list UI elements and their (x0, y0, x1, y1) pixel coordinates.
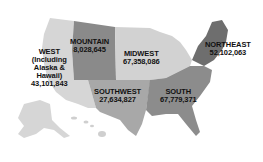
northeast-value: 52,102,063 (205, 49, 251, 57)
southwest-value: 27,634,827 (94, 96, 141, 104)
label-midwest: MIDWEST 67,358,086 (123, 50, 160, 66)
west-value: 43,101,843 (31, 80, 68, 88)
label-southwest: SOUTHWEST 27,634,827 (94, 88, 141, 104)
label-mountain: MOUNTAIN 8,028,645 (70, 38, 109, 54)
label-northeast: NORTHEAST 52,102,063 (205, 41, 251, 57)
region-hawaii[interactable] (71, 117, 106, 138)
mountain-value: 8,028,645 (70, 46, 109, 54)
label-south: SOUTH 67,779,371 (160, 88, 197, 104)
midwest-value: 67,358,086 (123, 58, 160, 66)
region-alaska[interactable] (18, 100, 70, 138)
south-value: 67,779,371 (160, 96, 197, 104)
label-west: WEST (Including Alaska & Hawaii) 43,101,… (31, 48, 68, 88)
